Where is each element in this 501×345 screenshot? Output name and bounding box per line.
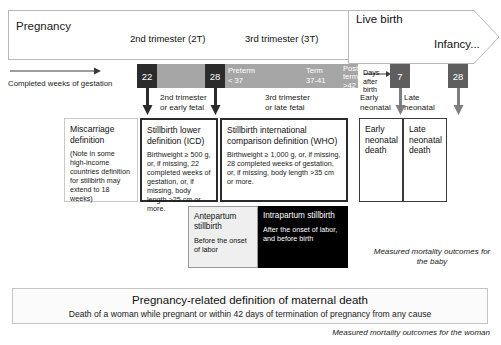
- third-trimester-label: 3rd trimester (3T): [245, 33, 318, 44]
- maternal-death-subtitle: Death of a woman while pregnant or withi…: [13, 309, 487, 319]
- early-neonatal-death-title: Early neonatal death: [365, 124, 397, 156]
- late-neonatal-sublabel: Lateneonatal: [404, 93, 435, 112]
- second-trimester-sublabel: 2nd trimesteror early fetal: [160, 93, 207, 112]
- gestation-axis-arrow-icon: [10, 62, 102, 72]
- gestation-axis-caption: Completed weeks of gestation: [8, 79, 112, 88]
- stillbirth-icd-definition-box: Stillbirth lower definition (ICD) Birthw…: [140, 118, 218, 202]
- term-band-label: Term 37-41: [306, 66, 325, 85]
- day-marker-28: 28: [448, 64, 468, 88]
- antepartum-body: Before the onset of labor: [194, 236, 252, 254]
- term-title: Term: [306, 66, 325, 76]
- late-neonatal-death-title: Late neonatal death: [409, 124, 441, 156]
- diagram-canvas: Pregnancy 2nd trimester (2T) 3rd trimest…: [0, 0, 501, 345]
- week-marker-22: 22: [137, 64, 157, 88]
- postterm-band-label: Post term >42: [343, 65, 360, 91]
- connector-arrow-day28: [453, 88, 464, 120]
- antepartum-stillbirth-box: Antepartum stillbirth Before the onset o…: [188, 206, 258, 268]
- maternal-death-panel: Pregnancy-related definition of maternal…: [12, 288, 488, 324]
- miscarriage-title: Miscarriage definition: [70, 124, 132, 145]
- live-birth-label: Live birth: [356, 13, 403, 25]
- postterm-range: >42: [343, 81, 360, 91]
- early-neonatal-death-box: Early neonatal death: [359, 118, 403, 202]
- infancy-label: Infancy...: [434, 38, 480, 50]
- intrapartum-body: After the onset of labor, and before bir…: [263, 225, 343, 243]
- outcome-woman-annotation: Measured mortality outcomes for the woma…: [300, 328, 490, 337]
- intrapartum-title: Intrapartum stillbirth: [263, 211, 343, 221]
- days-after-birth-caption: Days after birth: [363, 69, 393, 95]
- stillbirth-icd-body: Birthweight ≥ 500 g, or, if missing, 22 …: [147, 150, 211, 213]
- pregnancy-label: Pregnancy: [16, 20, 71, 32]
- stillbirth-icd-title: Stillbirth lower definition (ICD): [147, 125, 211, 146]
- term-range: 37-41: [306, 76, 325, 86]
- preterm-range: < 37: [228, 76, 255, 86]
- intrapartum-stillbirth-box: Intrapartum stillbirth After the onset o…: [258, 206, 348, 268]
- outcome-baby-annotation: Measured mortality outcomes for the baby: [369, 247, 495, 267]
- week-marker-28: 28: [205, 64, 225, 88]
- preterm-band-label: Preterm < 37: [228, 66, 255, 85]
- stillbirth-who-title: Stillbirth international comparison defi…: [227, 125, 341, 146]
- preterm-title: Preterm: [228, 66, 255, 76]
- day-marker-7: 7: [390, 64, 410, 88]
- early-neonatal-sublabel: Earlyneonatal: [360, 93, 391, 112]
- third-trimester-sublabel: 3rd trimesteror late fetal: [265, 93, 310, 112]
- stillbirth-who-definition-box: Stillbirth international comparison defi…: [220, 118, 348, 202]
- postterm-title: Post term: [343, 65, 360, 81]
- miscarriage-body: (Note in some high-income countries defi…: [70, 149, 132, 203]
- antepartum-title: Antepartum stillbirth: [194, 212, 252, 232]
- late-neonatal-death-box: Late neonatal death: [403, 118, 447, 202]
- connector-arrow-week28: [210, 88, 221, 120]
- second-trimester-label: 2nd trimester (2T): [130, 33, 206, 44]
- miscarriage-definition-box: Miscarriage definition (Note in some hig…: [64, 118, 138, 202]
- maternal-death-title: Pregnancy-related definition of maternal…: [13, 294, 487, 306]
- connector-arrow-week22: [142, 88, 153, 120]
- stillbirth-who-body: Birthweight ≥ 1,000 g, or, if missing, 2…: [227, 150, 341, 186]
